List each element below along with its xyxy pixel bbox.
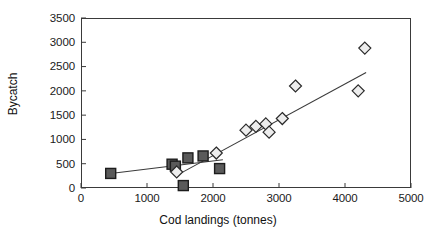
filled-squares-point-6: [215, 164, 225, 174]
open-diamonds-point-8: [352, 85, 364, 97]
open-diamonds-point-6: [276, 113, 288, 125]
trend-lines-group: [111, 72, 366, 175]
chart-figure: Bycatch 3500 3000 2500 2000 1500 1000 50…: [0, 0, 436, 241]
filled-squares-point-5: [198, 151, 208, 161]
open-diamonds-point-7: [290, 80, 302, 92]
open-diamonds-point-1: [210, 147, 222, 159]
filled-squares-point-4: [183, 153, 193, 163]
open-diamonds-point-9: [359, 42, 371, 54]
axis-ticks-group: [81, 18, 411, 188]
filled-squares-point-0: [106, 168, 116, 178]
filled-squares-point-3: [178, 181, 188, 191]
data-points-group: [106, 42, 371, 190]
chart-canvas: [0, 0, 436, 241]
